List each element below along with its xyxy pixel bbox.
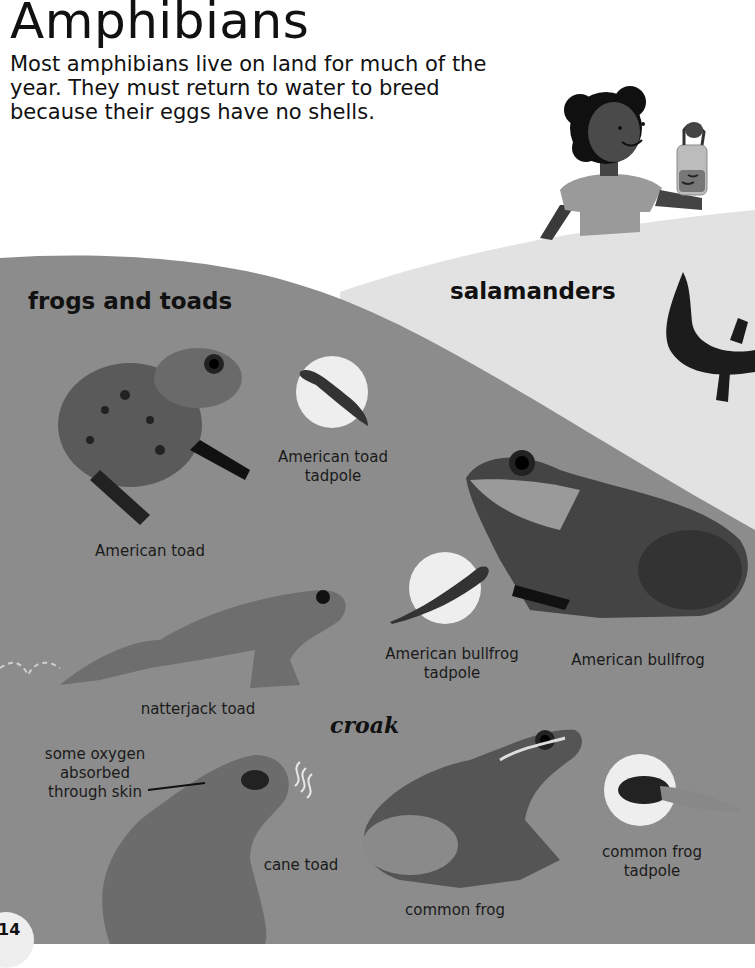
label-american-bullfrog-tadpole: American bullfrog tadpole xyxy=(362,645,542,683)
section-heading-frogs-and-toads: frogs and toads xyxy=(28,288,232,314)
label-american-toad-tadpole: American toad tadpole xyxy=(258,448,408,486)
label-line-1: American toad xyxy=(258,448,408,467)
croak-sound-text: croak xyxy=(330,712,399,738)
child-illustration xyxy=(540,86,707,240)
label-line-2: tadpole xyxy=(572,862,732,881)
label-cane-toad: cane toad xyxy=(246,856,356,875)
callout-line-3: through skin xyxy=(30,783,160,802)
label-line-1: common frog xyxy=(572,843,732,862)
callout-line-2: absorbed xyxy=(30,764,160,783)
label-common-frog: common frog xyxy=(390,901,520,920)
page-title: Amphibians xyxy=(10,0,309,50)
label-american-bullfrog: American bullfrog xyxy=(548,651,728,670)
callout-line-1: some oxygen xyxy=(30,745,160,764)
page-number: 14 xyxy=(0,920,20,939)
section-heading-salamanders: salamanders xyxy=(450,278,616,304)
label-american-toad: American toad xyxy=(70,542,230,561)
american-toad-tadpole-photo xyxy=(296,356,368,428)
label-line-1: American bullfrog xyxy=(362,645,542,664)
label-line-2: tadpole xyxy=(362,664,542,683)
label-line-2: tadpole xyxy=(258,467,408,486)
label-common-frog-tadpole: common frog tadpole xyxy=(572,843,732,881)
intro-text: Most amphibians live on land for much of… xyxy=(10,52,530,124)
label-natterjack-toad: natterjack toad xyxy=(118,700,278,719)
label-oxygen-callout: some oxygen absorbed through skin xyxy=(30,745,160,802)
